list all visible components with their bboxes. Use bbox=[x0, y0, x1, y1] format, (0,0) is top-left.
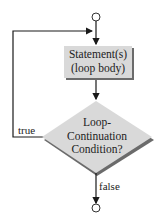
start-node-circle bbox=[92, 13, 100, 21]
condition-line2: Continuation bbox=[56, 130, 138, 144]
condition-text: Loop- Continuation Condition? bbox=[56, 116, 138, 157]
flowchart-canvas bbox=[0, 0, 156, 224]
true-label: true bbox=[18, 124, 35, 136]
loop-body-text: Statement(s) (loop body) bbox=[64, 47, 132, 75]
loop-body-line1: Statement(s) bbox=[64, 47, 132, 61]
condition-line1: Loop- bbox=[56, 116, 138, 130]
false-label: false bbox=[99, 180, 120, 192]
condition-line3: Condition? bbox=[56, 143, 138, 157]
loop-body-line2: (loop body) bbox=[64, 61, 132, 75]
end-node-circle bbox=[92, 204, 100, 212]
